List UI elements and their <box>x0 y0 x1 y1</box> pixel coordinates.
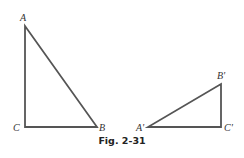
figure-canvas: A C B A' C' B' Fig. 2-31 <box>0 0 244 158</box>
figure-caption: Fig. 2-31 <box>98 135 145 146</box>
vertex-label-a-prime: A' <box>135 122 145 133</box>
vertex-label-b-prime: B' <box>217 70 226 81</box>
vertex-label-a: A <box>19 12 27 23</box>
vertex-label-b: B <box>99 122 105 133</box>
triangle-abc <box>25 26 97 127</box>
vertex-label-c-prime: C' <box>224 122 234 133</box>
triangle-a-prime-b-prime-c-prime <box>148 84 221 127</box>
vertex-label-c: C <box>13 122 20 133</box>
